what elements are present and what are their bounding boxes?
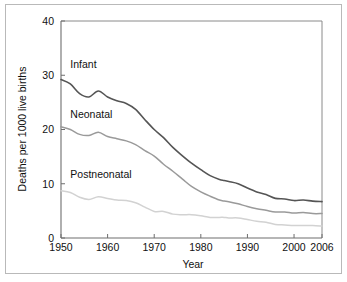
series-annotations: InfantNeonatalPostneonatal xyxy=(70,58,131,181)
series-label-infant: Infant xyxy=(70,58,96,70)
line-chart: 010203040 1950196019701980199020002006 I… xyxy=(0,0,347,282)
plot-frame xyxy=(61,21,322,238)
x-tick-label: 1990 xyxy=(236,241,260,253)
y-tick-label: 20 xyxy=(42,123,54,135)
x-tick-label: 1980 xyxy=(189,241,213,253)
x-axis-title: Year xyxy=(182,258,204,270)
x-tick-label: 1970 xyxy=(143,241,167,253)
y-axis-ticks: 010203040 xyxy=(42,15,65,244)
y-axis-title: Deaths per 1000 live births xyxy=(16,67,28,192)
x-tick-label: 2006 xyxy=(310,241,334,253)
series-label-neonatal: Neonatal xyxy=(70,108,112,120)
figure-container: 010203040 1950196019701980199020002006 I… xyxy=(0,0,347,282)
x-tick-label: 1960 xyxy=(96,241,120,253)
y-tick-label: 10 xyxy=(42,178,54,190)
x-tick-label: 2000 xyxy=(282,241,306,253)
x-axis-ticks: 1950196019701980199020002006 xyxy=(49,234,334,253)
series-line-postneonatal xyxy=(61,191,322,226)
x-tick-label: 1950 xyxy=(49,241,73,253)
y-tick-label: 30 xyxy=(42,69,54,81)
series-label-postneonatal: Postneonatal xyxy=(70,168,131,180)
y-tick-label: 40 xyxy=(42,15,54,27)
series-lines xyxy=(61,80,322,226)
series-line-infant xyxy=(61,80,322,202)
